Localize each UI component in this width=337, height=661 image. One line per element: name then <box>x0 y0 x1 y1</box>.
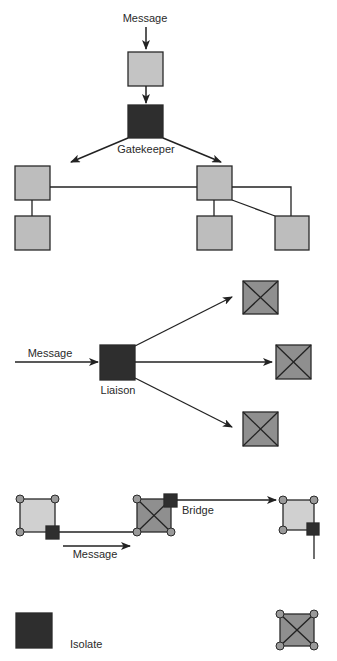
gatekeeper-node <box>128 105 163 138</box>
isolate-section: Isolate <box>16 610 318 650</box>
gatekeeper-section: Message Gatekeeper <box>15 12 309 250</box>
communication-roles-diagram: Message Gatekeeper Message Liaison <box>0 0 337 661</box>
liaison-target-bottom <box>243 412 278 446</box>
isolate-node <box>16 613 52 648</box>
bridge-right-group <box>279 496 319 559</box>
bridge-section: Message Bridge <box>16 494 319 560</box>
bridge-right-member <box>307 523 319 535</box>
right-diagonal-link <box>232 200 275 216</box>
bridge-left-group <box>16 495 59 539</box>
gatekeeper-role-label: Gatekeeper <box>117 143 175 155</box>
left-group-node <box>15 166 50 200</box>
isolate-role-label: Isolate <box>70 638 102 650</box>
liaison-target-top <box>243 281 278 314</box>
liaison-arrow-bottom <box>135 378 232 427</box>
sender-node <box>128 52 163 86</box>
bridge-message-label: Message <box>73 548 118 560</box>
gatekeeper-message-label: Message <box>123 12 168 24</box>
isolated-group <box>276 610 318 650</box>
bridge-node <box>164 494 177 507</box>
bridge-left-member <box>46 526 59 539</box>
liaison-target-middle <box>276 345 311 379</box>
right-sub-node-b <box>275 216 309 250</box>
left-sub-node <box>15 216 50 250</box>
right-group-node <box>197 166 232 200</box>
bridge-role-label: Bridge <box>182 504 214 516</box>
right-sub-node-a <box>197 216 232 250</box>
liaison-arrow-top <box>135 297 232 346</box>
liaison-role-label: Liaison <box>101 384 136 396</box>
liaison-node <box>100 345 135 380</box>
liaison-section: Message Liaison <box>15 281 311 446</box>
liaison-message-label: Message <box>28 347 73 359</box>
